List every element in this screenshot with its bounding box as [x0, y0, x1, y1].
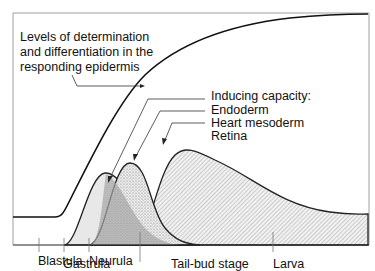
- inducing-capacity-title: Inducing capacity:: [211, 89, 311, 103]
- arrowhead-icon: [133, 154, 138, 161]
- arrowhead-icon: [162, 138, 167, 145]
- stage-tail-bud: Tail-bud stage: [171, 257, 249, 271]
- arrowhead-icon: [140, 84, 145, 88]
- stage-larva: Larva: [273, 257, 304, 271]
- determination-label-line-2: and differentiation in the: [20, 45, 153, 59]
- legend-heart-mesoderm: Heart mesoderm: [211, 116, 304, 130]
- legend-endoderm: Endoderm: [211, 103, 269, 117]
- determination-label-line-1: Levels of determination: [20, 30, 149, 44]
- legend-retina: Retina: [211, 129, 247, 143]
- determination-label-line-3: responding epidermis: [20, 60, 140, 74]
- stage-neurula: Neurula: [89, 254, 133, 268]
